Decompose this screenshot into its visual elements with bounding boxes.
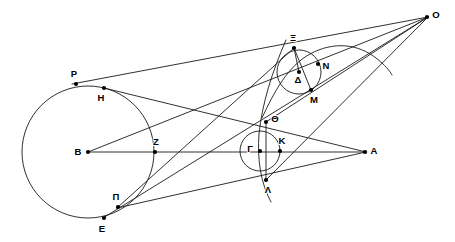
line-H-to-A <box>104 88 366 152</box>
point-dot-K <box>278 149 282 153</box>
point-dot-P2 <box>116 205 120 209</box>
point-label-K: K <box>279 135 286 146</box>
point-label-D: Δ <box>295 74 302 85</box>
point-label-P2: Π <box>113 191 120 202</box>
point-dot-L <box>264 178 268 182</box>
point-dot-O <box>425 15 429 19</box>
segments-group <box>72 17 428 218</box>
point-label-X: Ξ <box>290 32 296 43</box>
point-dot-A <box>363 150 367 154</box>
point-label-N: N <box>323 60 330 71</box>
point-dot-Z <box>153 150 157 154</box>
point-label-H: H <box>98 92 105 103</box>
point-label-O: O <box>432 9 439 20</box>
point-dot-M <box>309 88 313 92</box>
line-Pi-to-A <box>117 152 366 208</box>
point-label-B: B <box>75 146 82 157</box>
point-label-E: E <box>99 223 105 234</box>
point-label-Th: Θ <box>271 113 278 124</box>
point-dot-E <box>102 216 106 220</box>
point-label-L: Λ <box>265 184 272 195</box>
point-label-G: Γ <box>247 143 253 154</box>
point-dot-Th <box>264 120 268 124</box>
point-dot-G <box>258 149 262 153</box>
line-B-through-N-to-O <box>88 17 428 152</box>
chord-Xi-to-Delta <box>294 48 299 72</box>
point-dot-N <box>316 62 320 66</box>
circles-group <box>22 50 321 218</box>
point-label-Z: Z <box>153 136 159 147</box>
point-dot-H <box>102 86 106 90</box>
point-dot-X <box>292 46 296 50</box>
point-label-P: P <box>71 68 78 79</box>
point-dot-P <box>74 82 78 86</box>
point-dot-B <box>86 150 90 154</box>
geometry-canvas: OABPHZEΠΓKΘΛΔΞNM <box>0 0 455 242</box>
vertex-dots-group <box>74 15 429 220</box>
geometry-figure: OABPHZEΠΓKΘΛΔΞNM <box>0 0 455 242</box>
point-label-M: M <box>310 94 318 105</box>
point-label-A: A <box>371 145 378 156</box>
